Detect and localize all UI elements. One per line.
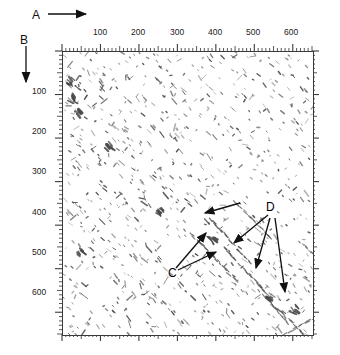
y-tick-label-500: 500 bbox=[32, 247, 46, 257]
x-tick-label-400: 400 bbox=[208, 27, 222, 37]
y-tick-label-100: 100 bbox=[32, 86, 46, 96]
x-tick-label-100: 100 bbox=[93, 27, 107, 37]
plot-area bbox=[62, 51, 314, 336]
x-tick-label-300: 300 bbox=[170, 27, 184, 37]
y-tick-label-400: 400 bbox=[32, 207, 46, 217]
dot-matrix bbox=[63, 52, 313, 335]
axis-label-a: A bbox=[32, 8, 40, 22]
y-tick-label-600: 600 bbox=[32, 287, 46, 297]
annotation-label-c: C bbox=[168, 266, 177, 280]
y-tick-label-200: 200 bbox=[32, 126, 46, 136]
x-tick-label-600: 600 bbox=[284, 27, 298, 37]
x-tick-label-200: 200 bbox=[131, 27, 145, 37]
axis-label-b: B bbox=[20, 33, 28, 47]
x-tick-label-500: 500 bbox=[246, 27, 260, 37]
dotplot-figure: A B 100 200 300 400 500 600 100 200 300 … bbox=[0, 0, 340, 355]
y-tick-label-300: 300 bbox=[32, 166, 46, 176]
annotation-label-d: D bbox=[266, 200, 275, 214]
